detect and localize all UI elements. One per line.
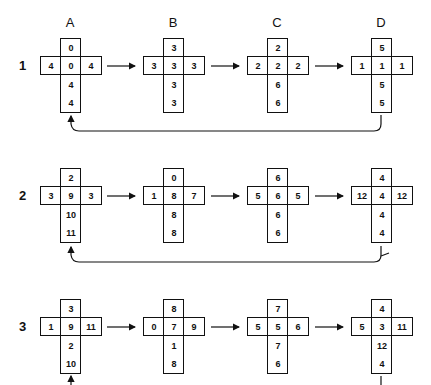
arrows-layer (0, 0, 431, 385)
